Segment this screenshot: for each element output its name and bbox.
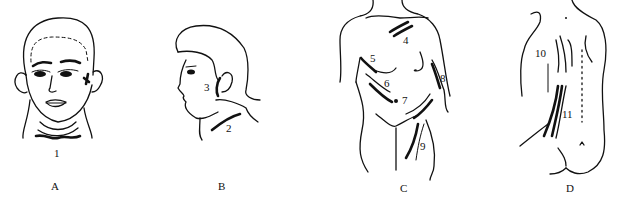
incision-number-8: 8 bbox=[440, 72, 446, 84]
neck-crease-1 bbox=[40, 122, 76, 130]
eye-left bbox=[34, 71, 46, 77]
ear-left bbox=[15, 73, 27, 93]
brow-left bbox=[33, 62, 51, 66]
face-profile bbox=[178, 60, 218, 119]
incision-number-6: 6 bbox=[384, 77, 390, 89]
incision-number-5: 5 bbox=[370, 52, 376, 64]
sacral-mark bbox=[580, 142, 584, 145]
incision-number-4: 4 bbox=[403, 34, 409, 46]
groin-crease bbox=[376, 114, 416, 126]
inguinal-line bbox=[406, 94, 430, 114]
figure-canvas: 1 A 3 2 B 4 5 6 7 bbox=[0, 0, 617, 204]
umbilicus bbox=[394, 99, 398, 103]
neck-back bbox=[216, 100, 258, 122]
panel-label-c: C bbox=[400, 182, 407, 194]
gluteal-line bbox=[558, 148, 566, 166]
panel-label-d: D bbox=[566, 182, 574, 194]
scapula-line-left-2 bbox=[560, 36, 566, 72]
torso-left-side bbox=[356, 58, 360, 82]
incision-number-11: 11 bbox=[562, 108, 573, 120]
brow bbox=[186, 66, 196, 67]
nose bbox=[49, 76, 56, 92]
hair-outline bbox=[176, 26, 260, 100]
panel-b-head-profile: 3 2 B bbox=[176, 26, 260, 192]
incision-number-1: 1 bbox=[54, 147, 60, 159]
incision-number-10: 10 bbox=[535, 47, 547, 59]
preauricular-incision bbox=[217, 78, 220, 96]
incision-number-3: 3 bbox=[204, 81, 210, 93]
incision-number-2: 2 bbox=[226, 122, 232, 134]
scapula-line-left-1 bbox=[556, 40, 559, 72]
panel-c-torso-front: 4 5 6 7 8 9 C bbox=[340, 0, 450, 194]
back-right-outline bbox=[566, 0, 606, 174]
panel-d-torso-back: 10 11 D bbox=[520, 0, 606, 194]
panel-label-a: A bbox=[51, 180, 59, 192]
panel-label-b: B bbox=[218, 180, 225, 192]
incision-number-9: 9 bbox=[420, 140, 426, 152]
hairline-incision-dashed bbox=[31, 37, 88, 62]
left-shoulder-arm bbox=[340, 0, 373, 82]
thigh-incision-9 bbox=[406, 124, 418, 158]
neck-left bbox=[23, 100, 30, 138]
brow-right bbox=[61, 61, 80, 63]
preauricular-incision-mark bbox=[84, 74, 89, 84]
breast-line-right bbox=[414, 52, 423, 71]
neck-right bbox=[84, 108, 92, 138]
eye bbox=[187, 70, 195, 75]
flank-incision-11a bbox=[544, 86, 558, 136]
jawline bbox=[26, 75, 92, 122]
scapula-line-right-2 bbox=[585, 36, 592, 62]
eye-right bbox=[60, 71, 72, 77]
right-thigh bbox=[426, 120, 435, 180]
buttock-line bbox=[550, 168, 566, 174]
spine-top-dot bbox=[565, 17, 567, 19]
neck-front bbox=[200, 118, 203, 140]
breast-line-left bbox=[374, 68, 396, 73]
incision-number-7: 7 bbox=[402, 94, 408, 106]
ear bbox=[222, 73, 232, 92]
panel-a-head-front: 1 A bbox=[15, 18, 102, 192]
scapula-line-right-1 bbox=[568, 40, 572, 66]
left-hip-thigh bbox=[356, 82, 368, 172]
clavicle-line bbox=[366, 16, 428, 18]
